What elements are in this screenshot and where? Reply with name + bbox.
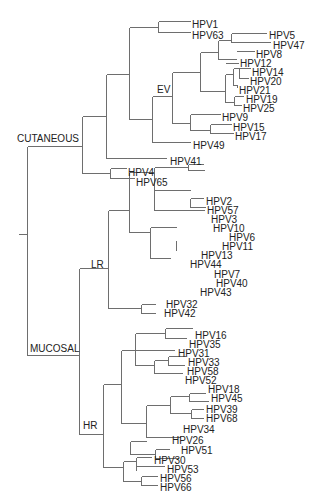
leaf-label-hpv41: HPV41: [170, 156, 202, 167]
phylogenetic-tree: CUTANEOUSEVLRMUCOSALHR HPV1HPV63HPV5HPV4…: [0, 0, 316, 504]
leaf-label-hpv49: HPV49: [193, 140, 225, 151]
leaf-label-hpv17: HPV17: [235, 131, 267, 142]
leaf-label-hpv34: HPV34: [183, 424, 215, 435]
clade-label-ev: EV: [157, 84, 171, 95]
clade-label-mucosal: MUCOSAL: [30, 343, 80, 354]
leaf-label-hpv1: HPV1: [192, 19, 219, 30]
leaf-label-hpv42: HPV42: [164, 308, 196, 319]
leaf-label-hpv68: HPV68: [206, 413, 238, 424]
leaf-label-hpv66: HPV66: [160, 482, 192, 493]
clade-label-cutaneous: CUTANEOUS: [17, 133, 79, 144]
clade-labels: CUTANEOUSEVLRMUCOSALHR: [17, 84, 171, 431]
clade-label-lr: LR: [91, 259, 104, 270]
clade-label-hr: HR: [83, 420, 97, 431]
leaf-label-hpv65: HPV65: [136, 177, 168, 188]
leaf-label-hpv45: HPV45: [211, 393, 243, 404]
leaf-label-hpv63: HPV63: [192, 30, 224, 41]
leaf-labels: HPV1HPV63HPV5HPV47HPV8HPV12HPV14HPV20HPV…: [128, 19, 305, 493]
leaf-label-hpv43: HPV43: [200, 287, 232, 298]
leaf-label-hpv51: HPV51: [181, 445, 213, 456]
